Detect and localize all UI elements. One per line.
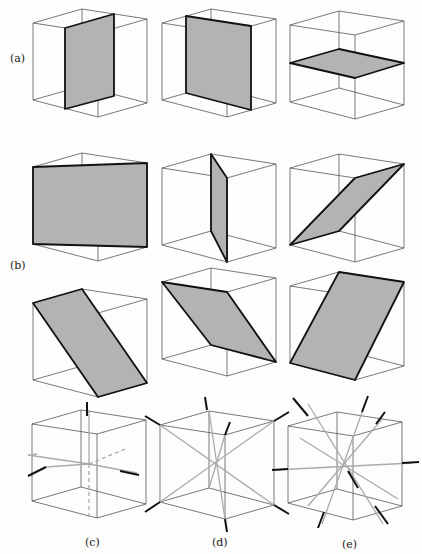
mirror-plane	[162, 282, 276, 362]
mirror-plane	[290, 49, 404, 78]
mirror-plane	[33, 289, 147, 397]
cube-a3	[290, 11, 404, 119]
mirror-plane	[33, 163, 147, 247]
cube-b2	[162, 154, 276, 262]
label-c: (c)	[85, 536, 100, 549]
cube-b5	[162, 268, 276, 376]
cube-e-twofold-axes	[272, 396, 419, 528]
cube-c-fourfold-axes	[28, 402, 146, 519]
mirror-plane	[186, 16, 251, 110]
cube-b6	[290, 272, 404, 380]
mirror-plane	[290, 272, 404, 380]
label-e: (e)	[342, 538, 357, 551]
symmetry-figure	[0, 0, 422, 554]
mirror-plane	[65, 14, 114, 109]
cube-a2	[162, 9, 276, 117]
mirror-plane	[211, 154, 227, 262]
label-a: (a)	[10, 52, 25, 65]
label-d: (d)	[212, 536, 228, 549]
cube-b4	[33, 289, 147, 397]
cube-d-threefold-axes	[145, 397, 289, 532]
label-b: (b)	[10, 259, 26, 272]
cube-b1	[33, 153, 147, 261]
cube-b3	[290, 154, 404, 262]
cube-a1	[33, 9, 147, 117]
